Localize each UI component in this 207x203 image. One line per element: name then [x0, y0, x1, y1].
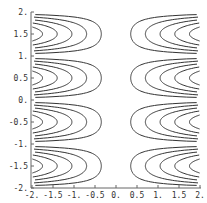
contour-line: [33, 23, 57, 45]
contour-line: [145, 149, 198, 183]
contour-line: [33, 67, 57, 89]
contour-line: [33, 111, 57, 133]
contour-line: [190, 71, 200, 85]
contour-line: [145, 61, 198, 95]
y-tick-label: 1.: [18, 52, 28, 61]
contour-line: [34, 149, 87, 183]
x-tick-label: 1.: [153, 191, 163, 200]
contour-line: [34, 17, 87, 51]
contour-line: [35, 15, 101, 54]
contour-lines: [32, 15, 199, 186]
x-tick-label: 1.5: [172, 191, 187, 200]
x-tick-label: 0.: [111, 191, 121, 200]
contour-line: [34, 105, 87, 139]
contour-line: [35, 103, 101, 142]
contour-plot: 2.1.51.0.50.-0.5-1.-1.5-2. -2.-1.5-1.-0.…: [0, 0, 207, 203]
y-tick-label: 0.: [18, 96, 28, 105]
contour-line: [175, 67, 199, 89]
contour-line: [175, 23, 199, 45]
contour-line: [34, 61, 87, 95]
x-tick-label: -0.5: [85, 191, 104, 200]
y-tick-label: 2.: [18, 8, 28, 17]
y-tick-label: 1.5: [14, 30, 29, 39]
y-tick-label: -1.: [14, 140, 28, 149]
contour-line: [145, 17, 198, 51]
contour-line: [35, 59, 101, 98]
x-tick-label: 2.: [195, 191, 205, 200]
contour-line: [131, 103, 197, 142]
y-tick-label: 0.5: [14, 74, 29, 83]
contour-line: [175, 155, 199, 177]
y-tick-label: -0.5: [9, 118, 28, 127]
contour-line: [131, 15, 197, 54]
contour-line: [131, 59, 197, 98]
x-tick-labels: -2.-1.5-1.-0.50.0.51.1.52.: [25, 185, 205, 200]
x-tick-label: -2.: [25, 191, 39, 200]
contour-line: [145, 105, 198, 139]
contour-line: [190, 115, 200, 129]
x-tick-label: 0.5: [130, 191, 145, 200]
contour-line: [190, 27, 200, 41]
y-tick-labels: 2.1.51.0.50.-0.5-1.-1.5-2.: [9, 8, 34, 193]
contour-line: [33, 155, 57, 177]
contour-line: [131, 147, 197, 186]
contour-line: [175, 111, 199, 133]
x-tick-label: -1.: [67, 191, 81, 200]
x-tick-label: -1.5: [43, 191, 62, 200]
contour-line: [35, 147, 101, 186]
y-tick-label: -1.5: [9, 162, 28, 171]
contour-line: [190, 159, 200, 173]
